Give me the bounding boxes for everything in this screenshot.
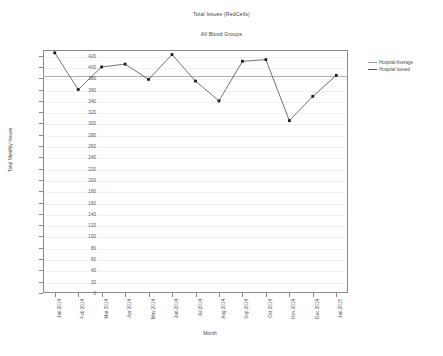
- y-axis-tick-label: 280: [56, 132, 96, 137]
- y-axis-tick-label: 220: [56, 166, 96, 171]
- x-axis-tick-label: Jan 2014: [57, 299, 62, 318]
- x-axis-tick: [55, 293, 56, 297]
- chart-legend: Hospital AverageHospital Issued: [368, 59, 442, 73]
- y-axis-tick: [39, 101, 43, 102]
- x-axis-tick: [336, 293, 337, 297]
- y-axis-tick: [39, 180, 43, 181]
- data-point-marker: [241, 60, 244, 63]
- legend-item[interactable]: Hospital Average: [368, 59, 442, 66]
- chart-subtitle: All Blood Groups: [0, 31, 443, 37]
- x-axis-tick-label: May 2014: [151, 299, 156, 319]
- y-axis-tick: [39, 78, 43, 79]
- data-point-marker: [288, 119, 291, 122]
- x-axis-title: Month: [0, 331, 420, 336]
- legend-swatch-icon: [368, 69, 377, 70]
- y-axis-tick: [39, 191, 43, 192]
- x-axis-tick-label: Apr 2014: [127, 299, 132, 318]
- x-axis-tick: [149, 293, 150, 297]
- y-axis-tick-label: 60: [56, 257, 96, 262]
- y-axis-tick: [39, 214, 43, 215]
- y-axis-tick-label: 140: [56, 211, 96, 216]
- x-axis-tick: [196, 293, 197, 297]
- data-point-marker: [124, 63, 127, 66]
- y-axis-tick: [39, 157, 43, 158]
- y-axis-tick: [39, 259, 43, 260]
- x-axis-tick: [266, 293, 267, 297]
- data-point-marker: [194, 80, 197, 83]
- x-axis-tick-label: Aug 2014: [221, 299, 226, 319]
- data-line: [55, 53, 337, 121]
- x-axis-tick: [125, 293, 126, 297]
- data-point-marker: [147, 78, 150, 81]
- y-axis-tick: [39, 236, 43, 237]
- x-axis-tick-label: Oct 2014: [268, 299, 273, 318]
- y-axis-tick: [39, 146, 43, 147]
- y-axis-tick: [39, 203, 43, 204]
- x-axis-tick: [313, 293, 314, 297]
- x-axis-tick-label: Dec 2014: [315, 299, 320, 319]
- data-point-marker: [171, 53, 174, 56]
- chart-title: Total Issues (RedCells): [0, 11, 443, 17]
- x-axis-tick: [289, 293, 290, 297]
- x-axis-tick: [78, 293, 79, 297]
- x-axis-tick-label: Jun 2014: [174, 299, 179, 318]
- y-axis-tick-label: 360: [56, 87, 96, 92]
- y-axis-tick-label: 300: [56, 121, 96, 126]
- y-axis-tick: [39, 270, 43, 271]
- y-axis-tick-label: 80: [56, 245, 96, 250]
- y-axis-tick: [39, 248, 43, 249]
- y-axis-tick-label: 40: [56, 268, 96, 273]
- y-axis-tick-label: 20: [56, 279, 96, 284]
- y-axis-tick: [39, 90, 43, 91]
- y-axis-tick-label: 200: [56, 177, 96, 182]
- data-point-marker: [335, 74, 338, 77]
- y-axis-tick-label: 240: [56, 155, 96, 160]
- y-axis-tick: [39, 282, 43, 283]
- y-axis-tick: [39, 293, 43, 294]
- legend-swatch-icon: [368, 62, 377, 63]
- x-axis-tick-label: Sep 2014: [244, 299, 249, 319]
- y-axis-tick-label: 160: [56, 200, 96, 205]
- y-axis-tick-label: 320: [56, 110, 96, 115]
- legend-item[interactable]: Hospital Issued: [368, 66, 442, 73]
- x-axis-tick-label: Mar 2014: [104, 299, 109, 318]
- y-axis-tick: [39, 112, 43, 113]
- y-axis-tick-label: 180: [56, 189, 96, 194]
- y-axis-tick: [39, 123, 43, 124]
- y-axis-tick-label: 400: [56, 64, 96, 69]
- y-axis-tick-label: 120: [56, 223, 96, 228]
- x-axis-tick-label: Feb 2014: [80, 299, 85, 318]
- y-axis-tick-label: 260: [56, 144, 96, 149]
- y-axis-tick-label: 380: [56, 76, 96, 81]
- x-axis-tick: [219, 293, 220, 297]
- data-point-marker: [100, 66, 103, 69]
- y-axis-tick-label: 0: [56, 291, 96, 296]
- y-axis-tick: [39, 67, 43, 68]
- legend-item-label: Hospital Average: [379, 60, 413, 65]
- y-axis-tick-label: 100: [56, 234, 96, 239]
- x-axis-tick: [242, 293, 243, 297]
- y-axis-tick: [39, 56, 43, 57]
- y-axis-tick-label: 420: [56, 53, 96, 58]
- legend-item-label: Hospital Issued: [379, 67, 410, 72]
- x-axis-tick: [172, 293, 173, 297]
- y-axis-tick: [39, 225, 43, 226]
- x-axis-tick-label: Nov 2014: [291, 299, 296, 319]
- x-axis-tick-label: Jul 2014: [198, 299, 203, 316]
- y-axis-tick: [39, 169, 43, 170]
- data-point-marker: [311, 95, 314, 98]
- chart-container: Total Issues (RedCells) All Blood Groups…: [0, 0, 443, 356]
- y-axis-tick: [39, 135, 43, 136]
- y-axis-tick-label: 340: [56, 98, 96, 103]
- data-point-marker: [264, 58, 267, 61]
- y-axis-title: Total Monthly Issues: [8, 128, 13, 172]
- x-axis-tick-label: Jan 2015: [338, 299, 343, 318]
- data-point-marker: [218, 99, 221, 102]
- x-axis-tick: [102, 293, 103, 297]
